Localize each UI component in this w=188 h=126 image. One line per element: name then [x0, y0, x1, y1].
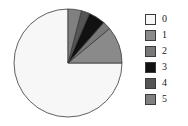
legend-item[interactable]: 1 [145, 27, 185, 43]
legend-item[interactable]: 3 [145, 59, 185, 75]
legend-item[interactable]: 5 [145, 91, 185, 107]
legend-item[interactable]: 4 [145, 75, 185, 91]
pie-slice-group [14, 9, 122, 117]
pie-svg [0, 0, 136, 126]
legend-label: 1 [162, 30, 167, 40]
legend-label: 0 [162, 14, 167, 24]
legend-label: 2 [162, 46, 167, 56]
legend-item[interactable]: 0 [145, 11, 185, 27]
legend-label: 5 [162, 94, 167, 104]
legend-swatch-icon [145, 62, 156, 73]
pie-chart-figure: 0 1 2 3 4 5 [0, 0, 188, 126]
legend-label: 3 [162, 62, 167, 72]
legend-swatch-icon [145, 30, 156, 41]
legend-swatch-icon [145, 78, 156, 89]
chart-legend: 0 1 2 3 4 5 [145, 11, 185, 115]
legend-item[interactable]: 2 [145, 43, 185, 59]
legend-swatch-icon [145, 14, 156, 25]
legend-swatch-icon [145, 94, 156, 105]
pie-plot-area [0, 0, 136, 126]
legend-swatch-icon [145, 46, 156, 57]
legend-label: 4 [162, 78, 167, 88]
